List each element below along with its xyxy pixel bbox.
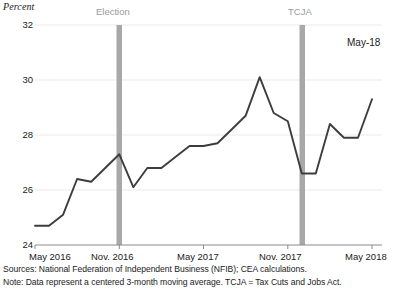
tcja-band bbox=[300, 25, 306, 245]
election-band bbox=[117, 25, 123, 245]
tcja-band-label: TCJA bbox=[288, 6, 312, 17]
sources-footnote: Sources: National Federation of Independ… bbox=[3, 264, 307, 274]
x-tick-nov-2016: Nov. 2016 bbox=[91, 251, 134, 262]
y-tick-32: 32 bbox=[3, 19, 33, 30]
y-tick-30: 30 bbox=[3, 74, 33, 85]
x-axis bbox=[35, 245, 382, 249]
y-tick-24: 24 bbox=[3, 239, 33, 250]
gridlines bbox=[35, 25, 382, 190]
note-footnote: Note: Data represent a centered 3-month … bbox=[3, 277, 342, 287]
x-tick-may-2016: May 2016 bbox=[29, 251, 71, 262]
endpoint-value-label: May-18 bbox=[347, 37, 380, 48]
y-tick-28: 28 bbox=[3, 129, 33, 140]
x-tick-may-2017: May 2017 bbox=[177, 251, 219, 262]
x-tick-nov-2017: Nov. 2017 bbox=[259, 251, 302, 262]
data-line bbox=[35, 77, 372, 226]
election-band-label: Election bbox=[96, 6, 130, 17]
nfib-expectations-line-chart: Percent 32 30 28 26 24 May bbox=[0, 0, 396, 299]
x-tick-may-2018: May 2018 bbox=[345, 251, 387, 262]
y-tick-26: 26 bbox=[3, 184, 33, 195]
